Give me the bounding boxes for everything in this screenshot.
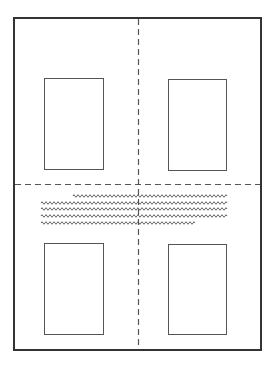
page-layout-diagram <box>0 0 277 371</box>
background <box>0 0 277 371</box>
